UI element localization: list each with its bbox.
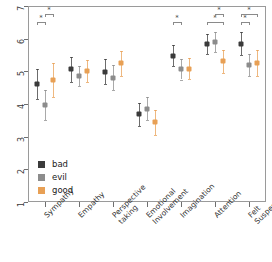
legend-label: good (52, 185, 73, 196)
data-point (119, 61, 124, 66)
significance-asterisk: * (243, 15, 247, 22)
legend-item-bad: bad (38, 158, 100, 171)
x-tick-mark (79, 202, 80, 207)
error-bar-cap (180, 59, 183, 60)
error-bar-cap (188, 58, 191, 59)
legend-label: bad (52, 159, 68, 170)
bracket-tick (223, 14, 224, 17)
bracket-tick (207, 22, 208, 25)
legend-item-good: good (38, 184, 100, 197)
error-bar-cap (86, 82, 89, 83)
error-bar-cap (138, 103, 141, 104)
chart-legend: badevilgood (38, 158, 100, 197)
error-bar-cap (104, 84, 107, 85)
error-bar-cap (256, 76, 259, 77)
data-point (51, 78, 56, 83)
error-bar-cap (222, 73, 225, 74)
error-bar-cap (52, 97, 55, 98)
error-bar-cap (120, 76, 123, 77)
data-point (111, 75, 116, 80)
bracket-tick (223, 22, 224, 25)
bracket-line (215, 14, 223, 15)
y-tick-label: 4 (18, 104, 26, 109)
chart-container: 1234567 ******* SympathyEmpathyPerspecti… (0, 0, 272, 262)
data-point (187, 66, 192, 71)
bracket-tick (215, 14, 216, 17)
error-bar-cap (248, 54, 251, 55)
data-point (77, 73, 82, 78)
error-bar-cap (188, 79, 191, 80)
y-tick-label: 1 (18, 202, 26, 207)
error-bar-cap (78, 66, 81, 67)
data-point (137, 112, 142, 117)
y-axis: 1234567 (0, 6, 28, 202)
bracket-line (241, 14, 257, 15)
error-bar-cap (78, 86, 81, 87)
error-bar-cap (44, 120, 47, 121)
bracket-tick (53, 14, 54, 17)
error-bar-cap (86, 60, 89, 61)
error-bar-cap (154, 110, 157, 111)
legend-swatch-icon (38, 174, 45, 181)
error-bar-cap (206, 34, 209, 35)
x-tick-mark (249, 202, 250, 207)
y-tick-label: 5 (18, 71, 26, 76)
bracket-line (207, 22, 223, 23)
bracket-tick (241, 22, 242, 25)
data-point (221, 59, 226, 64)
data-point (145, 106, 150, 111)
significance-asterisk: * (247, 7, 251, 14)
data-point (35, 82, 40, 87)
error-bar-cap (256, 50, 259, 51)
x-tick-mark (181, 202, 182, 207)
bracket-tick (173, 22, 174, 25)
bracket-line (45, 14, 53, 15)
y-tick-label: 3 (18, 137, 26, 142)
data-point (213, 39, 218, 44)
error-bar-cap (180, 80, 183, 81)
legend-item-evil: evil (38, 171, 100, 184)
significance-asterisk: * (175, 15, 179, 22)
bracket-tick (241, 14, 242, 17)
error-bar-cap (112, 90, 115, 91)
error-bar-cap (36, 99, 39, 100)
data-point (247, 63, 252, 68)
bracket-tick (257, 14, 258, 17)
significance-asterisk: * (217, 7, 221, 14)
error-bar-cap (112, 65, 115, 66)
y-tick-label: 6 (18, 39, 26, 44)
error-bar-cap (206, 54, 209, 55)
x-tick-mark (113, 202, 114, 207)
error-bar-cap (222, 50, 225, 51)
error-bar-cap (146, 97, 149, 98)
bracket-tick (37, 22, 38, 25)
data-point (179, 67, 184, 72)
bracket-tick (45, 22, 46, 25)
error-bar-cap (154, 135, 157, 136)
legend-label: evil (52, 172, 67, 183)
error-bar-cap (240, 55, 243, 56)
data-point (239, 41, 244, 46)
error-bar-cap (36, 69, 39, 70)
error-bar-cap (44, 90, 47, 91)
y-tick-label: 2 (18, 169, 26, 174)
error-bar-cap (104, 59, 107, 60)
bracket-line (173, 22, 181, 23)
y-tick-label: 7 (18, 6, 26, 11)
legend-swatch-icon (38, 187, 45, 194)
error-bar-cap (120, 51, 123, 52)
error-bar-cap (172, 45, 175, 46)
error-bar-cap (52, 63, 55, 64)
error-bar-cap (146, 120, 149, 121)
error-bar-cap (240, 32, 243, 33)
bracket-line (241, 22, 249, 23)
error-bar-cap (248, 76, 251, 77)
error-bar-cap (70, 82, 73, 83)
data-point (85, 69, 90, 74)
bracket-line (37, 22, 45, 23)
error-bar-cap (214, 32, 217, 33)
data-point (255, 60, 260, 65)
data-point (43, 102, 48, 107)
data-point (103, 69, 108, 74)
error-bar-cap (138, 126, 141, 127)
